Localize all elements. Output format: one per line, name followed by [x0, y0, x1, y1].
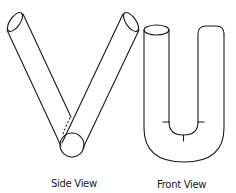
- front-inner-u-arc: [169, 122, 198, 135]
- side-view-label: Side View: [51, 178, 97, 189]
- front-outer-u: [144, 30, 224, 162]
- front-left-opening: [144, 25, 169, 35]
- bend-cross-section-circle: [60, 133, 84, 157]
- front-view-label: Front View: [157, 179, 206, 190]
- left-tube-inner-edge: [23, 14, 71, 117]
- front-view-drawing: [144, 25, 224, 162]
- side-view-drawing: [5, 10, 142, 157]
- hidden-edge-dots: [63, 118, 70, 134]
- right-tube-outer-edge: [83, 30, 139, 148]
- left-tube-outer-edge: [7, 30, 61, 146]
- front-right-rounded-top: [198, 26, 224, 122]
- tube-diagram: [0, 0, 236, 193]
- right-tube-inner-edge: [62, 14, 123, 143]
